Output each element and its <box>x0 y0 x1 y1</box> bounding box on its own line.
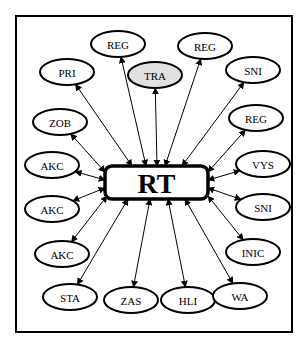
diagram-canvas: REGREGPRITRASNIZOBREGAKCVYSAKCSNIAKCINIC… <box>0 0 306 345</box>
node-akc-2[interactable]: AKC <box>25 196 79 222</box>
node-vys[interactable]: VYS <box>236 151 290 177</box>
edge-sta <box>77 199 128 284</box>
node-label: AKC <box>50 249 73 261</box>
diagram-svg: REGREGPRITRASNIZOBREGAKCVYSAKCSNIAKCINIC… <box>0 0 306 345</box>
node-label: AKC <box>40 204 63 216</box>
node-hli[interactable]: HLI <box>161 287 215 313</box>
node-reg-1[interactable]: REG <box>91 31 145 57</box>
node-label: SNI <box>244 65 262 77</box>
node-akc-3[interactable]: AKC <box>35 241 89 267</box>
node-label: REG <box>194 41 216 53</box>
node-pri[interactable]: PRI <box>40 59 94 85</box>
node-label: REG <box>107 39 129 51</box>
node-wa[interactable]: WA <box>213 283 267 309</box>
edge-akc-2 <box>73 188 105 201</box>
edge-sni-2 <box>208 188 241 199</box>
node-zob[interactable]: ZOB <box>33 109 87 135</box>
node-label: REG <box>245 113 267 125</box>
node-akc-1[interactable]: AKC <box>25 152 79 178</box>
node-reg-2[interactable]: REG <box>178 33 232 59</box>
node-sni-1[interactable]: SNI <box>226 57 280 83</box>
node-tra[interactable]: TRA <box>128 62 182 88</box>
node-label: VYS <box>252 159 274 171</box>
node-reg-3[interactable]: REG <box>229 105 283 131</box>
edge-vys <box>208 171 240 180</box>
node-label: TRA <box>144 70 166 82</box>
edge-hli <box>168 199 185 287</box>
node-label: AKC <box>40 160 63 172</box>
edge-tra <box>155 88 157 166</box>
node-label: HLI <box>179 295 198 307</box>
node-zas[interactable]: ZAS <box>104 287 158 313</box>
node-label: PRI <box>58 67 75 79</box>
node-inic[interactable]: INIC <box>226 239 280 265</box>
node-label: WA <box>231 291 248 303</box>
center-node[interactable]: RT <box>105 166 208 199</box>
edge-akc-1 <box>75 172 105 180</box>
node-label: INIC <box>242 247 265 259</box>
node-label: ZOB <box>49 117 71 129</box>
center-node-label: RT <box>138 168 176 199</box>
node-label: ZAS <box>121 295 142 307</box>
node-sta[interactable]: STA <box>43 284 97 310</box>
edge-wa <box>185 199 233 283</box>
node-sni-2[interactable]: SNI <box>236 194 290 220</box>
edge-zas <box>133 199 150 287</box>
node-label: STA <box>60 292 80 304</box>
node-label: SNI <box>254 202 272 214</box>
